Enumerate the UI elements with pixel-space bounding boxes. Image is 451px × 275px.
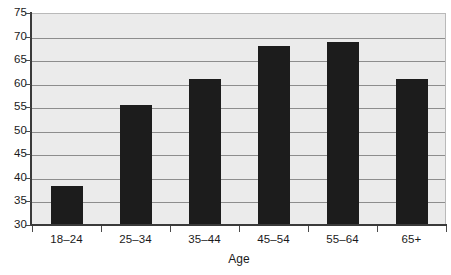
- bar-chart-figure: 75706560555045403530 18–2425–3435–4445–5…: [0, 0, 451, 275]
- x-axis-title: Age: [32, 252, 446, 266]
- y-tick-mark: [25, 201, 31, 202]
- y-tick-mark: [25, 225, 31, 226]
- x-tick-mark: [170, 226, 171, 232]
- bar: [51, 186, 83, 224]
- y-tick-label: 65: [0, 54, 27, 66]
- y-tick-label: 75: [0, 7, 27, 19]
- x-axis: 18–2425–3435–4445–5455–6465+: [32, 232, 446, 250]
- bar: [120, 105, 152, 224]
- plot-area: [32, 13, 446, 225]
- x-tick-label: 35–44: [170, 232, 239, 246]
- x-tick-mark: [446, 226, 447, 232]
- y-tick-label: 30: [0, 219, 27, 231]
- y-tick-label: 35: [0, 195, 27, 207]
- y-tick-label: 60: [0, 78, 27, 90]
- bar-series: [32, 14, 445, 224]
- x-tick-mark: [308, 226, 309, 232]
- y-tick-mark: [25, 13, 31, 14]
- y-tick-label: 45: [0, 148, 27, 160]
- y-tick-mark: [25, 154, 31, 155]
- y-tick-mark: [25, 107, 31, 108]
- x-tick-mark: [32, 226, 33, 232]
- bar: [327, 42, 359, 224]
- y-tick-label: 55: [0, 101, 27, 113]
- x-tick-label: 18–24: [32, 232, 101, 246]
- y-tick-mark: [25, 60, 31, 61]
- bar: [258, 46, 290, 224]
- y-tick-mark: [25, 178, 31, 179]
- y-tick-mark: [25, 131, 31, 132]
- x-tick-mark: [239, 226, 240, 232]
- x-tick-label: 45–54: [239, 232, 308, 246]
- x-tick-label: 25–34: [101, 232, 170, 246]
- y-tick-label: 50: [0, 125, 27, 137]
- x-tick-label: 65+: [377, 232, 446, 246]
- y-axis: 75706560555045403530: [0, 0, 27, 275]
- y-tick-mark: [25, 84, 31, 85]
- bar: [189, 79, 221, 224]
- x-tick-mark: [377, 226, 378, 232]
- y-tick-mark: [25, 37, 31, 38]
- bar: [396, 79, 428, 224]
- x-tick-mark: [101, 226, 102, 232]
- y-tick-label: 70: [0, 31, 27, 43]
- y-tick-label: 40: [0, 172, 27, 184]
- x-tick-label: 55–64: [308, 232, 377, 246]
